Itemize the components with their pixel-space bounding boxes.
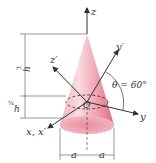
y-label: y xyxy=(139,111,146,122)
cone-diagram: z y y′ z′ x, x′ O θ = 60° 3 h ¼ h a a xyxy=(0,0,156,163)
left-radius-label: a xyxy=(71,149,77,160)
lower-height-var: h xyxy=(14,104,20,114)
right-radius-label: a xyxy=(99,149,105,160)
angle-arc xyxy=(106,72,124,110)
angle-label: θ = 60° xyxy=(112,80,147,90)
y-prime-label: y′ xyxy=(115,41,125,52)
origin-label: O xyxy=(83,100,91,110)
upper-height-var: h xyxy=(22,66,32,72)
x-label: x, x′ xyxy=(26,126,47,137)
upper-height-num: 3 xyxy=(15,66,22,70)
z-label: z xyxy=(90,6,97,17)
z-prime-label: z′ xyxy=(49,54,58,65)
